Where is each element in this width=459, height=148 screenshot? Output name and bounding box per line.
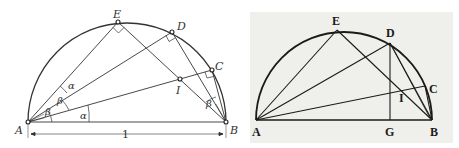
label-A: A: [14, 124, 23, 137]
label-B: B: [229, 124, 238, 137]
geometry-diagrams: A B C D E I α β β α β 1 A B C D E G I: [0, 0, 459, 148]
angle-alpha-top: α: [68, 80, 75, 91]
right-angle-D: [166, 36, 175, 42]
label-C: C: [429, 82, 438, 96]
point-C: [210, 68, 214, 72]
dimension-arrow-right: [219, 133, 223, 136]
left-figure: [26, 20, 228, 138]
label-E: E: [332, 14, 340, 28]
length-label: 1: [122, 128, 129, 141]
point-B: [224, 120, 228, 124]
angle-arc-alpha-low: [88, 105, 89, 122]
label-A: A: [252, 125, 261, 139]
right-angle-C: [205, 72, 214, 78]
angle-beta-B: β: [205, 98, 212, 109]
label-B: B: [430, 125, 438, 139]
angle-beta-low: β: [44, 106, 51, 117]
dimension-arrow-left: [31, 133, 35, 136]
chord-CB: [212, 70, 226, 122]
label-I: I: [175, 84, 181, 97]
chord-AC: [28, 70, 212, 122]
right-angle-E: [113, 28, 124, 34]
angle-arc-alpha-top: [60, 86, 67, 93]
point-D: [170, 30, 174, 34]
angle-beta-mid: β: [56, 95, 63, 106]
label-E: E: [112, 8, 121, 21]
label-C: C: [215, 60, 224, 73]
point-A: [26, 120, 30, 124]
angle-arc-beta-mid: [62, 100, 69, 110]
point-I: [178, 77, 182, 81]
label-I: I: [399, 91, 404, 105]
label-D: D: [386, 26, 395, 40]
angle-alpha-low: α: [80, 110, 87, 121]
label-D: D: [176, 20, 186, 33]
left-labels: A B C D E I α β β α β 1: [14, 8, 238, 141]
label-G: G: [385, 125, 394, 139]
